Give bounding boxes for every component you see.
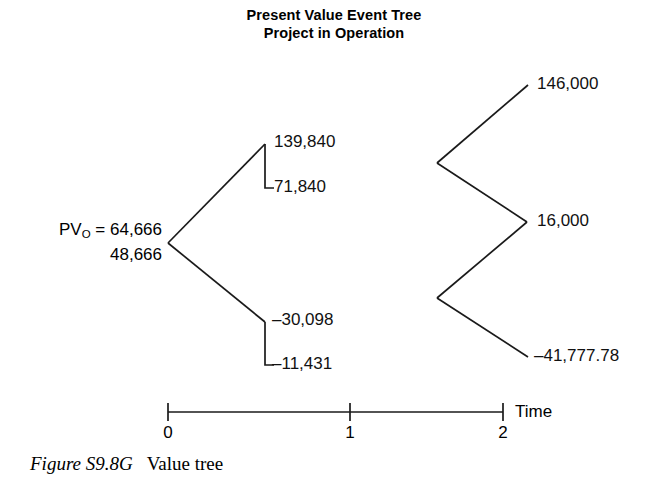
edge-t1-up-to-t2-top <box>437 85 528 163</box>
axis-tick-label-1: 1 <box>330 424 370 442</box>
node-label-t1-down-lower: –11,431 <box>272 354 332 374</box>
node-label-t2-bottom: –41,777.78 <box>534 346 619 366</box>
bracket-t1-up <box>265 144 274 188</box>
axis-tick-label-0: 0 <box>148 424 188 442</box>
figure-caption: Figure S9.8GValue tree <box>30 452 223 476</box>
edge-t1-up-to-t2-mid <box>437 163 527 222</box>
edge-root-to-t1-up <box>168 144 265 243</box>
root-node-value-line-1: PVO = 64,666 <box>26 218 162 243</box>
value-tree-figure: Present Value Event Tree Project in Oper… <box>0 0 668 482</box>
root-node-label: PVO = 64,666 48,666 <box>26 218 162 267</box>
axis-tick-label-2: 2 <box>483 424 523 442</box>
axis-name-time: Time <box>515 403 552 421</box>
root-pv-prefix: PV <box>59 220 82 239</box>
node-label-t1-down-upper: –30,098 <box>272 310 333 330</box>
root-node-value-line-2: 48,666 <box>26 243 162 267</box>
node-label-t2-top: 146,000 <box>537 74 598 94</box>
node-label-t1-up-lower: 71,840 <box>274 177 326 197</box>
edge-root-to-t1-down <box>168 243 265 322</box>
edge-t1-down-to-t2-mid <box>437 222 527 298</box>
root-pv-subscript: O <box>82 228 91 240</box>
figure-caption-id: Figure S9.8G <box>30 453 133 474</box>
node-label-t1-up-upper: 139,840 <box>274 132 335 152</box>
figure-caption-text: Value tree <box>147 453 223 474</box>
root-pv-value: = 64,666 <box>91 220 162 239</box>
node-label-t2-mid: 16,000 <box>537 211 589 231</box>
edge-t1-down-to-t2-bottom <box>437 298 528 357</box>
